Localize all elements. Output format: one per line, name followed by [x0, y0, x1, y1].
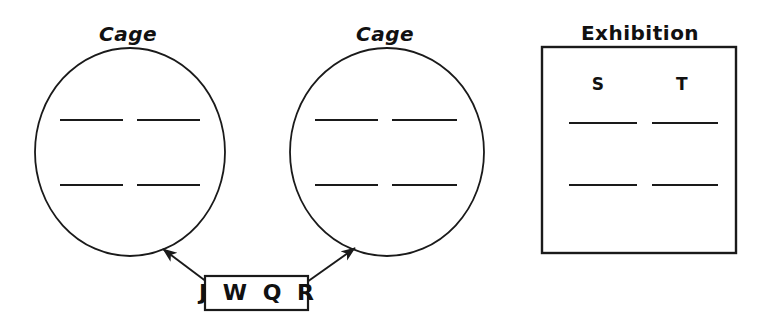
group-shape-cage-left [35, 48, 225, 256]
group-shape-exhibition [542, 47, 736, 253]
group-shape-cage-right [290, 48, 484, 256]
arrow-pool-to-cage-right [307, 248, 355, 282]
group-title-cage-right: Cage [356, 22, 414, 46]
diagram-vector-layer [0, 0, 770, 328]
slot-letter-t: T [676, 74, 688, 94]
group-outlines [35, 47, 736, 256]
item-pool-label[interactable]: J W Q R [199, 280, 318, 305]
group-title-cage-left: Cage [99, 22, 157, 46]
slot-letter-s: S [592, 74, 605, 94]
diagram-canvas: CageCageExhibitionSTJ W Q R [0, 0, 770, 328]
arrow-pool-to-cage-left [163, 249, 207, 282]
group-title-exhibition: Exhibition [581, 21, 699, 45]
answer-blank-lines [60, 120, 718, 185]
